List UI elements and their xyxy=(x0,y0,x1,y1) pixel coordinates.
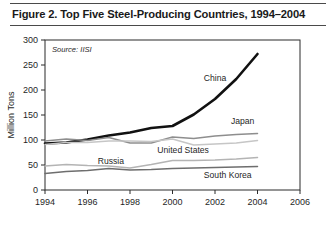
y-axis-title: Million Tons xyxy=(6,91,16,138)
page-title: Figure 2. Top Five Steel-Producing Count… xyxy=(12,8,324,20)
series-line-china xyxy=(45,54,258,144)
top-divider xyxy=(10,3,326,4)
figure-card: Figure 2. Top Five Steel-Producing Count… xyxy=(0,0,336,228)
plot-frame xyxy=(45,40,300,190)
line-chart: 050100150200250300 199419961998200020022… xyxy=(0,26,336,228)
y-axis-tick-label: 300 xyxy=(23,35,38,45)
y-axis-tick-label: 150 xyxy=(23,110,38,120)
x-axis-tick-label: 2002 xyxy=(205,197,225,207)
x-axis-tick-label: 2000 xyxy=(162,197,182,207)
series-label-south-korea: South Korea xyxy=(204,170,252,180)
y-axis-tick-label: 50 xyxy=(28,160,38,170)
x-axis-tick-label: 1998 xyxy=(120,197,140,207)
y-axis-tick-label: 0 xyxy=(33,185,38,195)
y-axis-tick-label: 200 xyxy=(23,85,38,95)
series-label-group: ChinaJapanUnited StatesRussiaSouth Korea xyxy=(98,73,255,180)
series-label-japan: Japan xyxy=(231,116,255,126)
x-axis-tick-label: 1994 xyxy=(35,197,55,207)
series-label-china: China xyxy=(204,73,227,83)
x-axis-tick-label: 1996 xyxy=(77,197,97,207)
x-axis-tick-label: 2004 xyxy=(247,197,267,207)
x-axis: 1994199619982000200220042006 xyxy=(35,190,310,207)
x-axis-tick-label: 2006 xyxy=(290,197,310,207)
y-axis-tick-label: 100 xyxy=(23,135,38,145)
series-label-russia: Russia xyxy=(98,156,124,166)
y-axis-tick-label: 250 xyxy=(23,60,38,70)
series-line-russia xyxy=(45,158,258,169)
chart-plot-area: 050100150200250300 199419961998200020022… xyxy=(0,26,336,228)
series-label-united-states: United States xyxy=(157,145,209,155)
y-axis: 050100150200250300 xyxy=(23,35,45,195)
data-series-group xyxy=(45,54,258,174)
source-note: Source: IISI xyxy=(52,45,93,54)
